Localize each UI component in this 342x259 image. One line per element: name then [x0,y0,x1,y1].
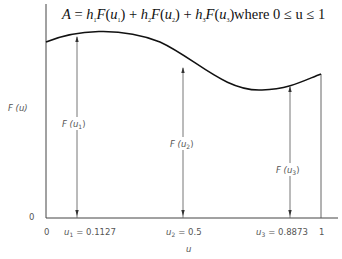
equation: A = h1F(u1) + h2F(u2) + h3F(u3) [61,6,234,23]
ordinate-label-u3: F (u3) [276,165,299,176]
x-zero-label: 0 [44,227,49,237]
y-zero-label: 0 [29,212,34,222]
function-curve [46,31,321,90]
x-axis-label: u [186,244,191,254]
arrow-up-icon [288,86,291,92]
y-axis-label: F (u) [8,103,28,113]
sample-label-u2: u2= 0.5 [166,227,202,238]
ordinate-label-u1: F (u1) [62,119,85,130]
x-one-label: 1 [319,227,324,237]
equation-condition: where 0 ≤ u ≤ 1 [234,6,325,22]
ordinate-label-u2: F (u2) [170,139,193,150]
sample-label-u1: u1= 0.1127 [64,227,116,238]
arrow-down-icon [181,210,184,216]
gauss-quadrature-diagram: A = h1F(u1) + h2F(u2) + h3F(u3) where 0 … [0,0,342,259]
ordinate-u3 [288,86,291,218]
arrow-up-icon [75,36,78,42]
arrow-down-icon [288,210,291,216]
arrow-down-icon [75,210,78,216]
arrow-up-icon [181,67,184,73]
sample-label-u3: u3= 0.8873 [256,227,308,238]
